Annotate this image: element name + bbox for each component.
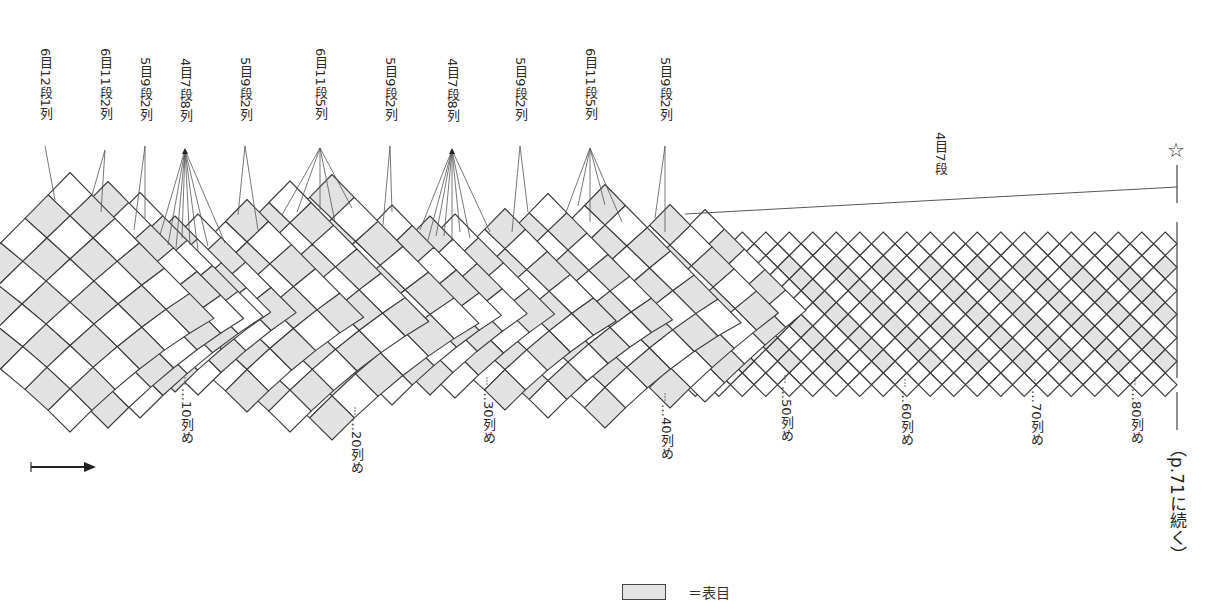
top-label: 5目9段2列 bbox=[658, 57, 672, 121]
top-label: 4目7段8列 bbox=[178, 58, 192, 122]
mesh-lattice bbox=[0, 173, 1177, 441]
top-label: 6目11段5列 bbox=[313, 48, 327, 120]
top-label: 5目9段2列 bbox=[238, 57, 252, 121]
column-marker: …20列め bbox=[349, 418, 363, 474]
column-marker: …10列め bbox=[179, 388, 193, 444]
top-label: 6目11段5列 bbox=[583, 48, 597, 120]
column-marker: …60列め bbox=[899, 390, 913, 446]
column-marker: …40列め bbox=[659, 404, 673, 460]
column-marker: …50列め bbox=[779, 386, 793, 442]
section-label: 4目7段 bbox=[933, 132, 947, 175]
legend-swatch-shaded bbox=[622, 584, 666, 600]
top-label: 6目12段1列 bbox=[38, 48, 52, 120]
top-label: 5目9段2列 bbox=[513, 57, 527, 121]
column-marker: …30列め bbox=[481, 388, 495, 444]
top-label: 5目9段2列 bbox=[383, 57, 397, 121]
star-icon: ☆ bbox=[1167, 140, 1185, 160]
top-label: 4目7段8列 bbox=[445, 58, 459, 122]
continuation-note: （p.71に続く） bbox=[1168, 440, 1186, 563]
column-marker: …80列め bbox=[1129, 388, 1143, 444]
legend-label: ＝表目 bbox=[688, 582, 730, 602]
top-label: 5目9段2列 bbox=[138, 57, 152, 121]
column-marker: …70列め bbox=[1029, 390, 1043, 446]
top-label: 6目11段2列 bbox=[98, 48, 112, 120]
